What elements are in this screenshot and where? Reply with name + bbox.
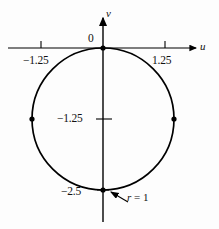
v-tick-label-neg125: −1.25 <box>57 113 83 125</box>
point-left <box>29 116 34 121</box>
point-top <box>100 45 105 50</box>
u-axis-label: u <box>200 41 206 52</box>
v-tick-label-neg25: −2.5 <box>61 186 81 198</box>
u-tick-label-pos125: 1.25 <box>152 55 171 67</box>
origin-label: 0 <box>88 33 94 45</box>
u-tick-label-neg125: −1.25 <box>23 55 49 67</box>
point-right <box>171 116 176 121</box>
radius-annotation-label: r = 1 <box>127 192 149 203</box>
v-axis-label: v <box>106 8 111 19</box>
point-bottom <box>100 187 105 192</box>
radius-annotation-arrow <box>111 192 128 202</box>
plot-canvas <box>0 0 219 229</box>
polar-circle-figure: 0 −1.25 1.25 −1.25 −2.5 u v r = 1 <box>0 0 219 229</box>
radius-value: 1 <box>143 191 149 203</box>
radius-equals-sign: = <box>131 191 143 203</box>
